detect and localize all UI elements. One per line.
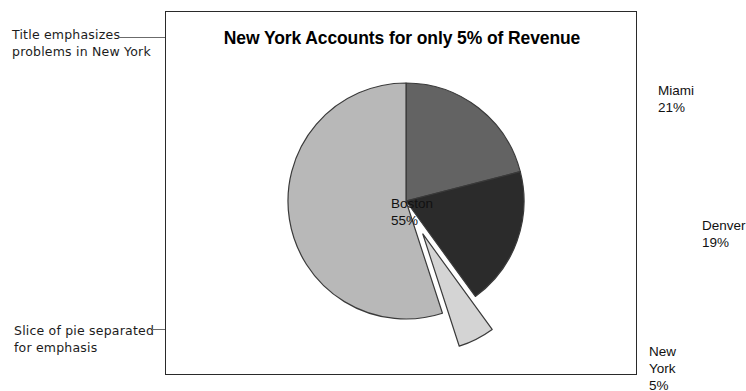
chart-frame: New York Accounts for only 5% of Revenue… [165,11,637,375]
pie-label-new-york: New York 5% [649,343,676,391]
pie-label-denver: Denver 19% [702,217,746,251]
pie-label-miami: Miami 21% [658,82,694,116]
pie-chart [166,12,638,376]
slice-annotation-text: Slice of pie separated for emphasis [14,322,174,356]
title-annotation-text: Title emphasizes problems in New York [12,26,162,60]
pie-label-boston: Boston 55% [391,195,433,229]
